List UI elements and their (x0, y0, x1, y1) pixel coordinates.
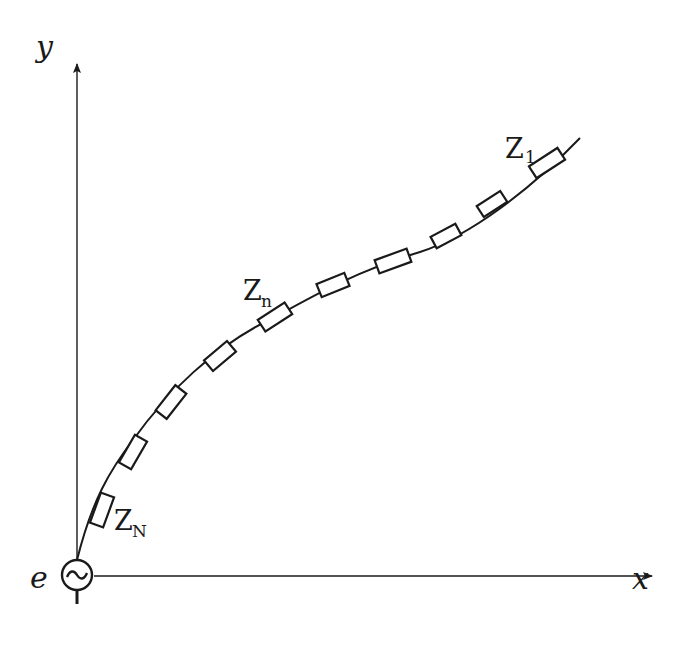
svg-text:n: n (261, 291, 272, 311)
impedance-z3 (431, 224, 462, 249)
svg-text:Z: Z (114, 505, 133, 536)
impedance-z5 (316, 273, 349, 297)
y-axis-label: y (34, 29, 54, 64)
label-zn: Z n (243, 275, 272, 311)
ac-source-icon (62, 560, 92, 604)
impedance-zN (90, 493, 114, 528)
svg-text:1: 1 (525, 147, 536, 167)
impedance-z7 (204, 341, 236, 371)
svg-text:Z: Z (243, 275, 262, 306)
impedance-elements (90, 148, 565, 528)
svg-text:N: N (132, 521, 147, 541)
impedance-chain-diagram: y x Z 1 Z n Z N e (0, 0, 681, 652)
label-zN: Z N (114, 505, 147, 541)
impedance-z4 (375, 249, 412, 274)
source-label: e (30, 560, 48, 595)
x-axis-label: x (632, 561, 649, 596)
svg-text:Z: Z (505, 133, 524, 164)
label-z1: Z 1 (505, 133, 536, 167)
impedance-z8 (156, 385, 187, 419)
